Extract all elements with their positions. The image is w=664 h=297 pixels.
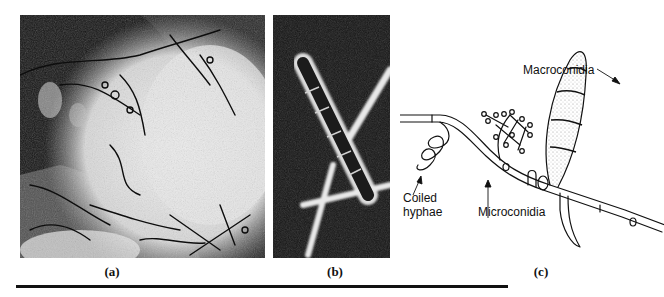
diagram-c <box>400 15 664 258</box>
label-coiled-line1: Coiled <box>403 191 442 205</box>
caption-c: (c) <box>534 264 548 280</box>
label-coiled-line2: hyphae <box>403 205 442 219</box>
label-macroconidia: Macroconidia <box>523 63 594 77</box>
fungal-structures-drawing <box>400 15 664 258</box>
micrograph-b <box>273 15 390 258</box>
micrograph-a <box>20 15 265 258</box>
micrograph-a-image <box>20 15 265 258</box>
caption-b: (b) <box>327 264 343 280</box>
micrograph-b-image <box>273 15 390 258</box>
figure-divider-rule <box>16 285 508 288</box>
label-coiled-hyphae: Coiled hyphae <box>403 191 442 219</box>
caption-a: (a) <box>104 264 119 280</box>
label-microconidia: Microconidia <box>478 205 545 219</box>
coiled-hyphae <box>417 122 449 170</box>
